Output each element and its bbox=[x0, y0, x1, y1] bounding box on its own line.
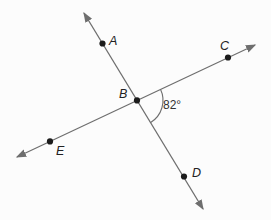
point-dot-E bbox=[47, 138, 53, 144]
angle-layer: 82° bbox=[151, 89, 182, 122]
point-label-C: C bbox=[220, 39, 230, 53]
geometry-diagram: 82° ABCDE bbox=[0, 0, 271, 220]
point-label-D: D bbox=[192, 166, 201, 180]
diagram-svg: 82° ABCDE bbox=[0, 0, 271, 220]
point-dot-C bbox=[225, 54, 231, 60]
point-label-A: A bbox=[108, 34, 117, 48]
points-layer bbox=[47, 40, 231, 179]
point-dot-B bbox=[134, 97, 140, 103]
point-dot-A bbox=[99, 40, 105, 46]
angle-arc bbox=[151, 89, 163, 122]
point-label-E: E bbox=[56, 144, 65, 158]
point-dot-D bbox=[181, 173, 187, 179]
labels-layer: ABCDE bbox=[56, 34, 230, 180]
angle-measure-label: 82° bbox=[163, 98, 181, 112]
point-label-B: B bbox=[119, 87, 127, 101]
